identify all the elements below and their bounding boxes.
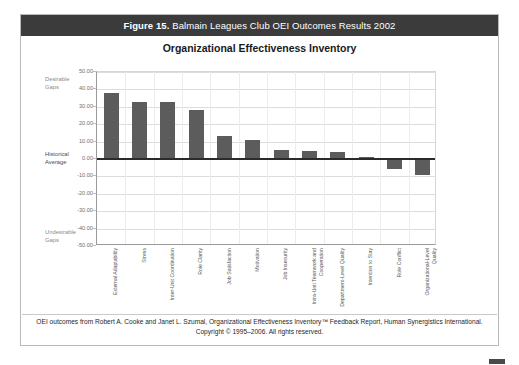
- x-axis-label: Department-Level Quality: [339, 248, 346, 312]
- x-axis-label: Inter-Unit Coordination: [169, 248, 176, 312]
- figure-frame: Figure 15. Balmain Leagues Club OEI Outc…: [20, 14, 499, 346]
- x-axis-label: Intra-Unit Teamwork and Cooperation: [311, 248, 324, 312]
- bar: [415, 159, 430, 175]
- figure-caption-bar: Figure 15. Balmain Leagues Club OEI Outc…: [21, 15, 498, 36]
- figure-caption: Figure 15. Balmain Leagues Club OEI Outc…: [124, 20, 396, 31]
- x-axis-label: Job Insecurity: [282, 248, 289, 312]
- bar: [104, 93, 119, 159]
- y-axis-tick-label: 50.00: [59, 68, 93, 74]
- plot-area: [96, 71, 436, 245]
- footer-divider: [22, 314, 497, 315]
- y-axis-tick-label: -10.00: [59, 172, 93, 178]
- y-axis-tick-label: 40.00: [59, 85, 93, 91]
- x-axis-label: Role Conflict: [396, 248, 403, 312]
- bar: [217, 136, 232, 159]
- y-axis-tick-label: 20.00: [59, 120, 93, 126]
- x-axis-labels: External AdaptabilityStressInter-Unit Co…: [96, 246, 436, 314]
- x-axis-label: Stress: [141, 248, 148, 312]
- footer-source: OEI outcomes from Robert A. Cooke and Ja…: [33, 317, 486, 327]
- zero-baseline: [97, 158, 435, 160]
- bar: [160, 102, 175, 159]
- x-axis-label: External Adaptability: [112, 248, 119, 312]
- bar: [132, 102, 147, 159]
- x-axis-label: Job Satisfaction: [226, 248, 233, 312]
- bar: [387, 159, 402, 169]
- plot-wrapper: [96, 71, 436, 245]
- footer-copyright: Copyright © 1995–2006. All rights reserv…: [33, 327, 486, 337]
- x-axis-label: Intention to Stay: [367, 248, 374, 312]
- figure-footer: OEI outcomes from Robert A. Cooke and Ja…: [33, 317, 486, 337]
- x-axis-label: Role Clarity: [197, 248, 204, 312]
- page-corner-mark: [489, 359, 505, 364]
- x-axis-label: Motivation: [254, 248, 261, 312]
- bar: [245, 140, 260, 159]
- y-axis-tick-label: -20.00: [59, 190, 93, 196]
- chart-title: Organizational Effectiveness Inventory: [21, 42, 498, 54]
- figure-number: Figure 15.: [124, 20, 170, 31]
- x-axis-label: Organizational-Level Quality: [424, 248, 437, 312]
- y-axis-tick-label: 10.00: [59, 138, 93, 144]
- y-axis-tick-label: 0.00: [59, 155, 93, 161]
- y-axis-tick-label: -50.00: [59, 242, 93, 248]
- figure-caption-text: Balmain Leagues Club OEI Outcomes Result…: [169, 20, 395, 31]
- figure-page: Figure 15. Balmain Leagues Club OEI Outc…: [0, 0, 519, 365]
- y-axis-tick-label: 30.00: [59, 103, 93, 109]
- y-axis-tick-label: -40.00: [59, 225, 93, 231]
- y-axis-tick-label: -30.00: [59, 207, 93, 213]
- y-axis-ticks: 50.0040.0030.0020.0010.000.00-10.00-20.0…: [55, 71, 93, 245]
- bar: [189, 110, 204, 159]
